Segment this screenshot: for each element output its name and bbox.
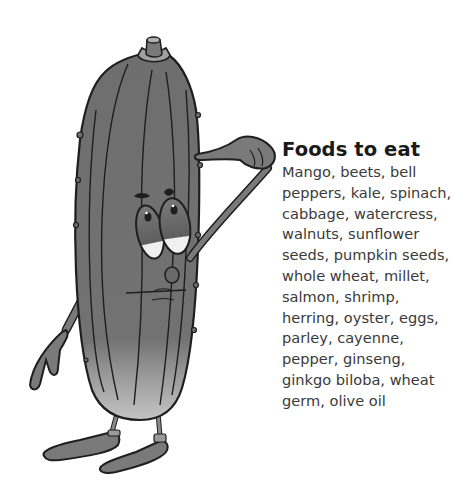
food-line: cabbage, watercress,	[282, 204, 453, 225]
foods-panel: Foods to eat Mango, beets, bell peppers,…	[282, 138, 453, 412]
cucumber-character-icon	[0, 0, 300, 502]
food-line: Mango, beets, bell	[282, 162, 453, 183]
food-line: pepper, ginseng,	[282, 349, 453, 370]
food-line: salmon, shrimp,	[282, 287, 453, 308]
food-line: peppers, kale, spinach,	[282, 183, 453, 204]
food-line: parley, cayenne,	[282, 328, 453, 349]
food-line: herring, oyster, eggs,	[282, 308, 453, 329]
food-line: germ, olive oil	[282, 391, 453, 412]
cucumber-stem	[138, 37, 170, 62]
food-line: seeds, pumpkin seeds,	[282, 245, 453, 266]
food-line: walnuts, sunflower	[282, 224, 453, 245]
food-line: ginkgo biloba, wheat	[282, 370, 453, 391]
feet	[43, 430, 167, 473]
food-list: Mango, beets, bell peppers, kale, spinac…	[282, 162, 453, 412]
food-line: whole wheat, millet,	[282, 266, 453, 287]
pointing-arm	[190, 137, 275, 258]
panel-title: Foods to eat	[282, 138, 453, 162]
